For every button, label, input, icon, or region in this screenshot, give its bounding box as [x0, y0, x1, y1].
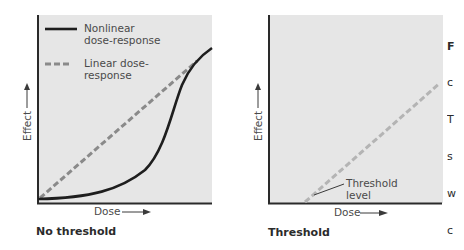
side-text-line: s: [447, 151, 464, 163]
effect-arrow-icon: [255, 83, 261, 90]
legend-nonlinear-line1: Nonlinear: [84, 22, 161, 34]
threshold-annotation-line2: level: [346, 189, 398, 201]
side-text-line: c: [447, 225, 464, 237]
right-x-axis-label: Dose: [334, 206, 360, 218]
legend-linear-line2: response: [84, 69, 149, 81]
dose-arrow-icon: [379, 210, 388, 216]
legend-nonlinear-label: Nonlinear dose-response: [84, 22, 161, 46]
right-plot-background: [269, 15, 443, 203]
legend-linear-line1: Linear dose-: [84, 57, 149, 69]
left-x-axis-label: Dose: [94, 205, 120, 217]
left-caption: No threshold: [36, 225, 116, 238]
side-text-line: w: [447, 188, 464, 200]
side-text-line: T: [447, 114, 464, 126]
legend-nonlinear-line2: dose-response: [84, 34, 161, 46]
right-panel-threshold: Threshold level Effect Dose Threshold: [232, 0, 464, 250]
dose-arrow-icon: [143, 209, 151, 215]
side-text-line: c: [447, 77, 464, 89]
left-y-axis-label: Effect: [21, 111, 33, 141]
right-caption: Threshold: [268, 226, 330, 239]
left-panel-no-threshold: Nonlinear dose-response Linear dose- res…: [0, 0, 232, 250]
legend-linear-label: Linear dose- response: [84, 57, 149, 81]
right-y-axis-label: Effect: [252, 111, 264, 141]
side-text-line: F: [447, 41, 464, 53]
threshold-annotation-line1: Threshold: [346, 177, 398, 189]
effect-arrow-icon: [24, 83, 30, 90]
threshold-level-annotation: Threshold level: [346, 177, 398, 201]
truncated-side-caption: F c T s w c W h f: [447, 16, 464, 250]
